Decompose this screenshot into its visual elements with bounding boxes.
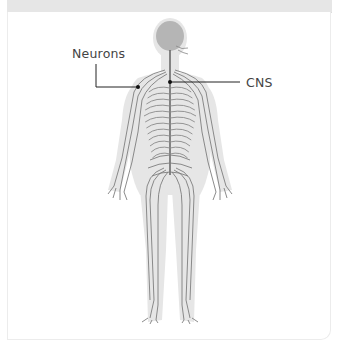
nervous-system-figure (0, 0, 340, 344)
neurons-label: Neurons (72, 46, 125, 61)
left-arm (108, 84, 136, 192)
brain (156, 21, 184, 51)
right-arm (204, 84, 232, 192)
cns-label: CNS (246, 75, 273, 90)
neurons-pointer-dot (136, 85, 140, 89)
left-leg (140, 190, 168, 322)
cns-pointer-dot (168, 80, 172, 84)
right-leg (172, 190, 200, 322)
neurons-leader-line (96, 64, 138, 87)
